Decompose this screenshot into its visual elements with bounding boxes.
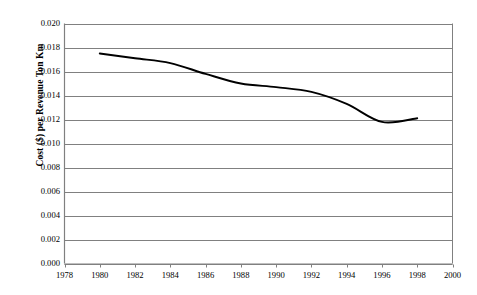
- plot-area: [0, 0, 477, 295]
- axis-frame: [65, 24, 453, 265]
- gridlines: [65, 25, 453, 265]
- data-series: [100, 54, 417, 123]
- line-chart: Cost ($) per Revenue Ton Km 0.0000.0020.…: [0, 0, 477, 295]
- series-line: [100, 54, 417, 123]
